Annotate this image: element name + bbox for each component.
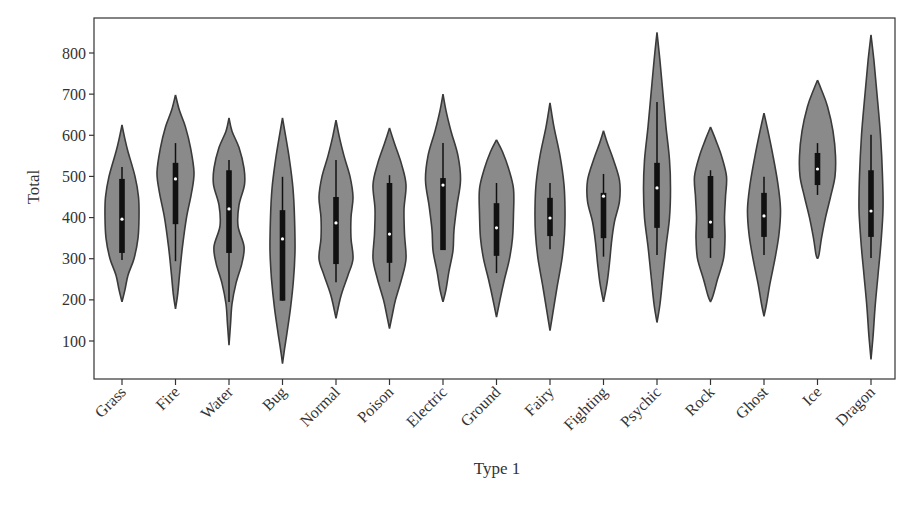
violin-grass xyxy=(105,125,139,302)
violin-fire xyxy=(157,95,194,309)
x-tick-label-grass: Grass xyxy=(91,383,129,421)
x-tick-label-fire: Fire xyxy=(152,383,182,413)
median-dot xyxy=(602,195,605,198)
y-tick-label: 500 xyxy=(62,168,86,185)
iqr-box xyxy=(387,183,393,263)
iqr-box xyxy=(173,163,179,224)
x-tick-label-electric: Electric xyxy=(403,383,450,430)
median-dot xyxy=(816,167,819,170)
y-tick-label: 600 xyxy=(62,127,86,144)
iqr-box xyxy=(440,178,446,250)
violin-water xyxy=(213,118,245,345)
iqr-box xyxy=(494,203,500,256)
median-dot xyxy=(174,177,177,180)
y-tick-label: 200 xyxy=(62,291,86,308)
y-tick-label: 700 xyxy=(62,86,86,103)
y-axis-label: Total xyxy=(24,169,43,204)
iqr-box xyxy=(654,163,660,228)
x-tick-label-bug: Bug xyxy=(259,383,291,415)
violin-psychic xyxy=(644,32,671,322)
median-dot xyxy=(655,186,658,189)
x-tick-label-psychic: Psychic xyxy=(617,383,665,431)
violins-group xyxy=(105,32,883,363)
iqr-box xyxy=(333,197,339,264)
median-dot xyxy=(120,218,123,221)
y-tick-label: 800 xyxy=(62,45,86,62)
median-dot xyxy=(869,209,872,212)
median-dot xyxy=(334,221,337,224)
x-tick-label-fairy: Fairy xyxy=(521,383,558,420)
violin-fairy xyxy=(535,103,565,331)
y-tick-label: 400 xyxy=(62,209,86,226)
median-dot xyxy=(227,207,230,210)
median-dot xyxy=(548,216,551,219)
violin-dragon xyxy=(859,35,883,360)
median-dot xyxy=(281,237,284,240)
y-tick-label: 100 xyxy=(62,333,86,350)
violin-electric xyxy=(425,94,460,302)
violin-fighting xyxy=(587,131,620,302)
iqr-box xyxy=(226,170,232,253)
violin-poison xyxy=(373,128,406,329)
x-tick-label-dragon: Dragon xyxy=(832,383,879,430)
x-tick-label-poison: Poison xyxy=(354,383,397,426)
iqr-box xyxy=(708,176,714,238)
violin-chart: 100200300400500600700800 GrassFireWaterB… xyxy=(0,0,918,507)
violin-ice xyxy=(799,80,835,259)
iqr-box xyxy=(868,170,874,237)
median-dot xyxy=(709,220,712,223)
x-axis-label: Type 1 xyxy=(474,459,521,478)
x-tick-label-normal: Normal xyxy=(297,383,344,430)
iqr-box xyxy=(280,210,286,301)
violin-rock xyxy=(694,127,726,302)
violin-normal xyxy=(319,120,353,318)
x-tick-label-ice: Ice xyxy=(799,383,825,409)
median-dot xyxy=(441,183,444,186)
y-tick-label: 300 xyxy=(62,250,86,267)
x-axis: GrassFireWaterBugNormalPoisonElectricGro… xyxy=(91,379,878,434)
iqr-box xyxy=(601,193,607,238)
y-axis: 100200300400500600700800 xyxy=(62,45,94,350)
violin-bug xyxy=(270,118,295,364)
median-dot xyxy=(762,214,765,217)
x-tick-label-water: Water xyxy=(197,383,236,422)
median-dot xyxy=(495,226,498,229)
violin-ghost xyxy=(747,113,780,316)
violin-ground xyxy=(479,140,514,317)
iqr-box xyxy=(119,179,125,253)
x-tick-label-rock: Rock xyxy=(682,383,718,419)
x-tick-label-fighting: Fighting xyxy=(560,383,611,434)
median-dot xyxy=(388,232,391,235)
x-tick-label-ghost: Ghost xyxy=(732,383,771,422)
x-tick-label-ground: Ground xyxy=(457,383,504,430)
